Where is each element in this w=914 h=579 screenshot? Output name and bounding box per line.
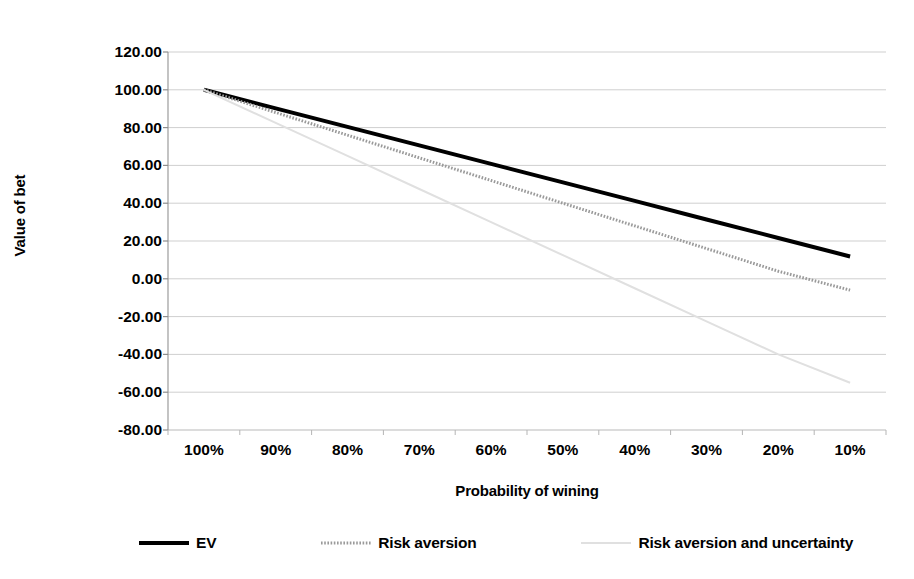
x-tick-label: 40% bbox=[599, 441, 671, 469]
legend-label: Risk aversion and uncertainty bbox=[638, 534, 853, 552]
x-tick-label: 100% bbox=[168, 441, 240, 469]
series-lines bbox=[204, 90, 850, 383]
legend-item-0[interactable]: EV bbox=[138, 534, 216, 552]
legend-swatch-icon bbox=[138, 536, 190, 550]
x-tick-label: 30% bbox=[671, 441, 743, 469]
y-axis-line bbox=[163, 52, 168, 430]
x-tick-label: 60% bbox=[455, 441, 527, 469]
x-tick-label: 10% bbox=[814, 441, 886, 469]
x-tick-label: 50% bbox=[527, 441, 599, 469]
x-axis-title-label: Probability of wining bbox=[455, 482, 598, 499]
x-tick-label: 70% bbox=[383, 441, 455, 469]
legend-label: Risk aversion bbox=[378, 534, 476, 552]
series-line-1 bbox=[204, 90, 850, 290]
chart-container: Value of bet 120.00100.0080.0060.0040.00… bbox=[0, 0, 914, 579]
x-axis-ticks bbox=[168, 430, 886, 435]
x-axis-title: Probability of wining bbox=[168, 482, 886, 500]
x-tick-label: 20% bbox=[742, 441, 814, 469]
chart-legend: EVRisk aversionRisk aversion and uncerta… bbox=[120, 528, 910, 558]
x-tick-label: 90% bbox=[240, 441, 312, 469]
legend-label: EV bbox=[196, 534, 216, 552]
legend-item-2[interactable]: Risk aversion and uncertainty bbox=[580, 534, 853, 552]
x-tick-label: 80% bbox=[312, 441, 384, 469]
series-line-0 bbox=[204, 90, 850, 257]
x-axis-tick-labels: 100%90%80%70%60%50%40%30%20%10% bbox=[168, 441, 886, 469]
legend-swatch-icon bbox=[580, 536, 632, 550]
legend-item-1[interactable]: Risk aversion bbox=[320, 534, 476, 552]
legend-swatch-icon bbox=[320, 536, 372, 550]
series-line-2 bbox=[204, 90, 850, 383]
